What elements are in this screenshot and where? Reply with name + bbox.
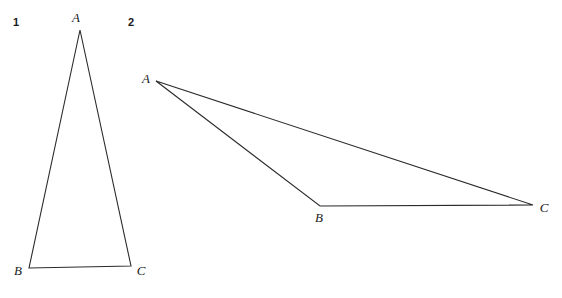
triangles-diagram: 1 A B C 2 A B C: [0, 0, 562, 298]
panel-1-number: 1: [13, 16, 19, 28]
panel-2-vertex-label-b: B: [315, 210, 323, 225]
panel-1-vertex-label-c: C: [137, 263, 146, 278]
panel-1-vertex-label-b: B: [14, 263, 22, 278]
panel-1-triangle: [29, 30, 131, 268]
panel-2-triangle: [156, 81, 533, 206]
panel-1-vertex-label-a: A: [71, 10, 80, 25]
panel-1-group: 1 A B C: [13, 10, 146, 278]
panel-2-group: 2 A B C: [128, 16, 549, 225]
figure-canvas: 1 A B C 2 A B C: [0, 0, 562, 298]
panel-2-vertex-label-c: C: [540, 200, 549, 215]
panel-2-number: 2: [128, 16, 134, 28]
panel-2-vertex-label-a: A: [141, 71, 150, 86]
